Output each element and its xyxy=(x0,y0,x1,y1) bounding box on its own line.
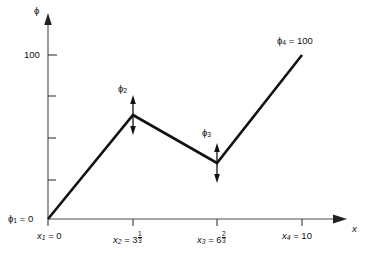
data-polyline xyxy=(48,55,302,219)
x-axis-arrowhead xyxy=(333,215,347,224)
x-tick-label-1: x1 = 0 xyxy=(37,231,62,242)
fraction-one-third: 13 xyxy=(138,231,142,244)
phi3-label: ϕ3 xyxy=(202,128,211,139)
x-axis-ticks xyxy=(48,219,302,226)
fraction-two-thirds: 23 xyxy=(222,231,226,244)
y-tick-label-100: 100 xyxy=(24,50,40,60)
figure-canvas: ϕ 100 ϕ1 = 0 ϕ2 ϕ3 ϕ4 = 100 x1 = 0 x2 = … xyxy=(0,0,365,260)
phi4-label: ϕ4 = 100 xyxy=(277,36,313,47)
x-tick-label-3: x3 = 623 xyxy=(197,231,226,246)
phi1-label: ϕ1 = 0 xyxy=(8,214,33,225)
phi2-label: ϕ2 xyxy=(118,84,127,95)
x-axis-symbol: x xyxy=(352,224,357,234)
y-axis-symbol: ϕ xyxy=(34,6,39,16)
x-tick-label-4: x4 = 10 xyxy=(282,231,312,242)
x-tick-label-2: x2 = 313 xyxy=(113,231,142,246)
y-axis-ticks xyxy=(48,55,57,180)
y-axis-arrowhead xyxy=(44,13,52,25)
